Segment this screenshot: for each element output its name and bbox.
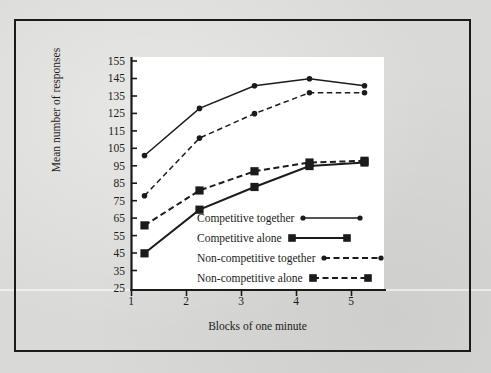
legend-label-non-competitive-together: Non-competitive together: [197, 252, 315, 264]
legend-swatch-square-solid: [287, 232, 352, 244]
legend-entry-non-competitive-alone[interactable]: Non-competitive alone: [197, 269, 373, 287]
figure-page: Mean number of responses 155 145 135 125…: [0, 0, 491, 373]
legend-swatch-circle-dashed: [320, 252, 385, 264]
legend-swatch-circle-solid: [299, 212, 364, 224]
legend-entry-non-competitive-together[interactable]: Non-competitive together: [197, 249, 385, 267]
legend-entry-competitive-together[interactable]: Competitive together: [197, 209, 364, 227]
x-axis-label: Blocks of one minute: [131, 320, 384, 332]
legend-label-competitive-together: Competitive together: [197, 212, 294, 224]
legend-swatch-square-dashed: [308, 272, 373, 284]
legend-label-competitive-alone: Competitive alone: [197, 232, 282, 244]
y-axis-label: Mean number of responses: [50, 10, 62, 210]
legend-label-non-competitive-alone: Non-competitive alone: [197, 272, 303, 284]
legend-entry-competitive-alone[interactable]: Competitive alone: [197, 229, 352, 247]
